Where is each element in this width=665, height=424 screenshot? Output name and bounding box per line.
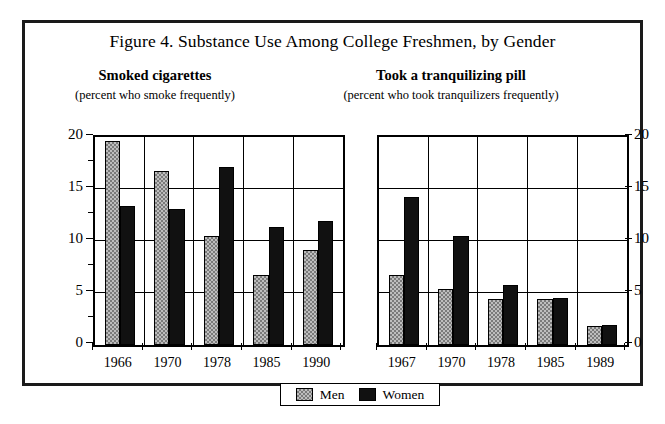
legend-label-women: Women bbox=[383, 387, 425, 403]
ytick-mark bbox=[625, 238, 632, 239]
ytick-mark-minor bbox=[88, 160, 93, 161]
legend: Men Women bbox=[280, 383, 440, 406]
legend-entry-men: Men bbox=[296, 387, 345, 403]
legend-entry-women: Women bbox=[359, 387, 425, 403]
bar-men-1978 bbox=[204, 236, 219, 345]
gridline-vertical bbox=[243, 137, 244, 345]
ytick-label-smoked-cigarettes-5: 5 bbox=[49, 283, 83, 298]
ytick-label-smoked-cigarettes-10: 10 bbox=[49, 231, 83, 246]
xtick-mark bbox=[291, 343, 292, 350]
panel-title-smoked-cigarettes: Smoked cigarettes bbox=[3, 67, 307, 84]
bar-women-1978 bbox=[219, 167, 234, 345]
xtick-mark bbox=[426, 343, 427, 350]
bar-women-1989 bbox=[602, 325, 617, 345]
ytick-mark bbox=[625, 290, 632, 291]
xtick-mark bbox=[92, 343, 93, 350]
bar-women-1970 bbox=[169, 209, 184, 345]
xtick-mark bbox=[241, 343, 242, 350]
ytick-label-took-tranquilizing-pill-10: 10 bbox=[634, 231, 665, 246]
ytick-mark bbox=[86, 290, 93, 291]
legend-swatch-women-icon bbox=[359, 388, 376, 401]
ytick-label-smoked-cigarettes-0: 0 bbox=[49, 335, 83, 350]
bar-men-1966 bbox=[105, 141, 120, 345]
bar-men-1967 bbox=[389, 275, 404, 345]
gridline-vertical bbox=[527, 137, 528, 345]
xtick-mark bbox=[475, 343, 476, 350]
bar-women-1966 bbox=[120, 206, 135, 345]
panel-title-took-tranquilizing-pill: Took a tranquilizing pill bbox=[293, 67, 609, 84]
panel-subtitle-took-tranquilizing-pill: (percent who took tranquilizers frequent… bbox=[287, 88, 615, 103]
bar-women-1978 bbox=[503, 285, 518, 345]
xtick-mark bbox=[525, 343, 526, 350]
xtick-mark bbox=[142, 343, 143, 350]
bar-men-1970 bbox=[154, 171, 169, 345]
gridline-vertical bbox=[477, 137, 478, 345]
ytick-mark bbox=[625, 134, 632, 135]
xtick-mark bbox=[340, 343, 341, 350]
gridline-horizontal bbox=[379, 188, 627, 189]
ytick-mark-minor bbox=[88, 212, 93, 213]
ytick-label-smoked-cigarettes-20: 20 bbox=[49, 127, 83, 142]
gridline-vertical bbox=[193, 137, 194, 345]
ytick-mark bbox=[86, 238, 93, 239]
figure-caption: Figure 4. Substance Use Among College Fr… bbox=[25, 31, 640, 52]
bar-men-1989 bbox=[587, 326, 602, 345]
figure-frame: Figure 4. Substance Use Among College Fr… bbox=[22, 20, 643, 386]
ytick-label-took-tranquilizing-pill-20: 20 bbox=[634, 127, 665, 142]
ytick-mark bbox=[625, 186, 632, 187]
bar-women-1970 bbox=[453, 236, 468, 345]
gridline-vertical bbox=[577, 137, 578, 345]
xtick-mark bbox=[191, 343, 192, 350]
ytick-label-took-tranquilizing-pill-15: 15 bbox=[634, 179, 665, 194]
xtick-label-smoked-cigarettes-1990: 1990 bbox=[286, 355, 346, 371]
bar-women-1990 bbox=[318, 221, 333, 345]
legend-label-men: Men bbox=[320, 387, 345, 403]
ytick-label-took-tranquilizing-pill-5: 5 bbox=[634, 283, 665, 298]
gridline-vertical bbox=[293, 137, 294, 345]
bar-men-1978 bbox=[488, 299, 503, 345]
ytick-label-smoked-cigarettes-15: 15 bbox=[49, 179, 83, 194]
legend-swatch-men-icon bbox=[296, 388, 313, 401]
xtick-mark bbox=[624, 343, 625, 350]
ytick-mark bbox=[86, 134, 93, 135]
bar-women-1967 bbox=[404, 197, 419, 345]
xtick-mark bbox=[575, 343, 576, 350]
bar-women-1985 bbox=[269, 227, 284, 345]
xtick-label-took-tranquilizing-pill-1989: 1989 bbox=[570, 355, 630, 371]
xtick-mark bbox=[376, 343, 377, 350]
bar-men-1990 bbox=[303, 250, 318, 345]
bar-men-1985 bbox=[537, 299, 552, 345]
panel-subtitle-smoked-cigarettes: (percent who smoke frequently) bbox=[3, 88, 307, 103]
ytick-mark-minor bbox=[88, 316, 93, 317]
ytick-mark-minor bbox=[88, 264, 93, 265]
bar-men-1985 bbox=[253, 275, 268, 345]
plot-area-smoked-cigarettes bbox=[93, 135, 345, 347]
gridline-vertical bbox=[144, 137, 145, 345]
plot-area-took-tranquilizing-pill bbox=[377, 135, 629, 347]
bar-women-1985 bbox=[553, 298, 568, 345]
ytick-label-took-tranquilizing-pill-0: 0 bbox=[634, 335, 665, 350]
ytick-mark bbox=[625, 342, 632, 343]
ytick-mark bbox=[86, 186, 93, 187]
bar-men-1970 bbox=[438, 289, 453, 345]
gridline-vertical bbox=[428, 137, 429, 345]
